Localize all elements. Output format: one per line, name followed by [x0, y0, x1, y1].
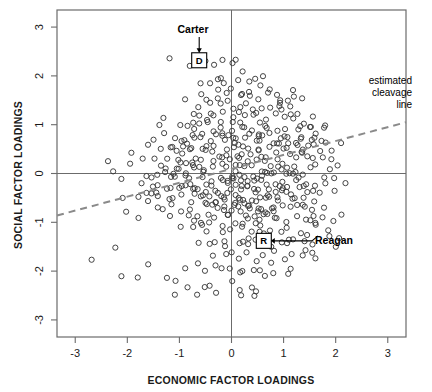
- data-point: [220, 230, 225, 235]
- y-axis-tick-label: 0: [33, 170, 45, 176]
- data-point: [251, 267, 256, 272]
- data-point: [266, 187, 271, 192]
- data-point: [195, 261, 200, 266]
- data-point: [218, 125, 223, 130]
- data-point: [164, 275, 169, 280]
- data-point: [224, 164, 229, 169]
- data-point: [233, 57, 238, 62]
- data-point: [195, 292, 200, 297]
- data-point: [168, 185, 173, 190]
- x-axis-tick-label: -2: [122, 347, 132, 359]
- data-point: [339, 212, 344, 217]
- data-point: [247, 79, 252, 84]
- data-point: [140, 156, 145, 161]
- data-point: [323, 181, 328, 186]
- data-point: [310, 114, 315, 119]
- data-point: [219, 266, 224, 271]
- data-point: [135, 275, 140, 280]
- data-point: [338, 140, 343, 145]
- data-point: [309, 207, 314, 212]
- data-point: [271, 248, 276, 253]
- data-point: [242, 112, 247, 117]
- data-point: [284, 165, 289, 170]
- data-points: [89, 56, 348, 299]
- data-point: [268, 164, 273, 169]
- data-point: [162, 131, 167, 136]
- data-point: [236, 256, 241, 261]
- data-point: [178, 209, 183, 214]
- data-point: [275, 198, 280, 203]
- data-point: [136, 215, 141, 220]
- data-point: [210, 149, 215, 154]
- data-point: [257, 120, 262, 125]
- x-axis-tick-label: -3: [70, 347, 80, 359]
- data-point: [322, 175, 327, 180]
- data-point: [294, 155, 299, 160]
- data-point: [258, 195, 263, 200]
- data-point: [155, 205, 160, 210]
- data-point: [155, 172, 160, 177]
- data-point: [222, 244, 227, 249]
- data-point: [318, 148, 323, 153]
- data-point: [238, 209, 243, 214]
- data-point: [207, 81, 212, 86]
- data-point: [233, 221, 238, 226]
- data-point: [241, 197, 246, 202]
- data-point: [210, 253, 215, 258]
- data-point: [174, 148, 179, 153]
- data-point: [212, 240, 217, 245]
- x-axis-tick-label: 0: [228, 347, 234, 359]
- data-point: [246, 146, 251, 151]
- data-point: [253, 76, 258, 81]
- reagan-annotation-label: Reagan: [315, 234, 353, 246]
- data-point: [230, 60, 235, 65]
- data-point: [202, 284, 207, 289]
- data-point: [178, 224, 183, 229]
- data-point: [161, 115, 166, 120]
- data-point: [288, 204, 293, 209]
- data-point: [267, 228, 272, 233]
- data-point: [248, 152, 253, 157]
- data-point: [303, 248, 308, 253]
- data-point: [187, 207, 192, 212]
- data-point: [191, 120, 196, 125]
- data-point: [215, 205, 220, 210]
- data-point: [211, 62, 216, 67]
- data-point: [105, 159, 110, 164]
- data-point: [269, 260, 274, 265]
- data-point: [184, 141, 189, 146]
- data-point: [230, 278, 235, 283]
- data-point: [295, 111, 300, 116]
- data-point: [198, 157, 203, 162]
- data-point: [267, 130, 272, 135]
- data-point: [327, 167, 332, 172]
- data-point: [193, 156, 198, 161]
- data-point: [197, 121, 202, 126]
- data-point: [290, 87, 295, 92]
- data-point: [282, 127, 287, 132]
- data-point: [152, 156, 157, 161]
- data-point: [207, 194, 212, 199]
- data-point: [204, 229, 209, 234]
- data-point: [320, 215, 325, 220]
- data-point: [280, 161, 285, 166]
- data-point: [149, 191, 154, 196]
- data-point: [165, 156, 170, 161]
- data-point: [185, 123, 190, 128]
- data-point: [267, 194, 272, 199]
- data-point: [236, 109, 241, 114]
- data-point: [220, 109, 225, 114]
- data-point: [300, 253, 305, 258]
- data-point: [224, 90, 229, 95]
- data-point: [204, 144, 209, 149]
- data-point: [207, 283, 212, 288]
- data-point: [144, 173, 149, 178]
- data-point: [221, 81, 226, 86]
- data-point: [207, 241, 212, 246]
- data-point: [183, 161, 188, 166]
- y-axis-tick-label: 1: [33, 122, 45, 128]
- data-point: [256, 97, 261, 102]
- data-point: [285, 98, 290, 103]
- data-point: [199, 92, 204, 97]
- data-point: [284, 225, 289, 230]
